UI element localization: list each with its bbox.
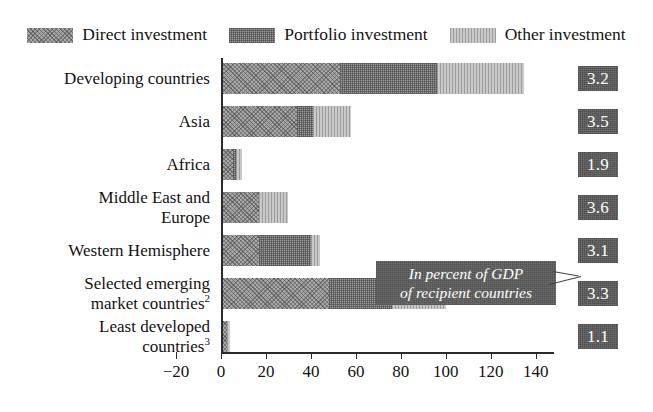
bar-row: Africa1.9 [0, 144, 653, 185]
legend-label-other-investment: Other investment [505, 26, 626, 44]
legend-swatch-other-investment [450, 28, 496, 43]
x-tick-label: 80 [392, 362, 409, 382]
value-badge: 1.9 [578, 152, 618, 177]
category-label: Middle East andEurope [0, 187, 212, 228]
footnote-marker: 3 [205, 335, 211, 347]
bar-row: Developing countries3.2 [0, 58, 653, 99]
category-label: Asia [0, 101, 212, 142]
x-tick-label: 20 [257, 362, 274, 382]
x-tick-mark [491, 352, 492, 359]
bar-segment-direct-investment [223, 235, 259, 266]
legend-label-direct-investment: Direct investment [82, 26, 207, 44]
category-label-line-1: Selected emerging [84, 274, 210, 294]
x-tick-mark [446, 352, 447, 359]
x-tick-mark [536, 352, 537, 359]
category-label: Africa [0, 144, 212, 185]
x-tick-label: −20 [163, 362, 190, 382]
x-tick-label: 140 [523, 362, 549, 382]
category-label-line-1: Western Hemisphere [68, 241, 210, 261]
category-label-line-2: market countries2 [91, 294, 210, 314]
bar-segment-other-investment [311, 235, 320, 266]
annotation-line-1: In percent of GDP [409, 264, 523, 283]
category-label: Western Hemisphere [0, 230, 212, 271]
value-badge: 3.1 [578, 238, 618, 263]
legend-item-portfolio-investment: Portfolio investment [229, 26, 427, 44]
bar-segment-portfolio-investment [259, 235, 311, 266]
category-label-line-1: Asia [179, 112, 210, 132]
annotation-callout: In percent of GDP of recipient countries [376, 261, 556, 305]
category-label: Developing countries [0, 58, 212, 99]
stacked-bar [223, 192, 288, 223]
value-badge: 3.6 [578, 195, 618, 220]
bar-segment-direct-investment [223, 149, 233, 180]
x-tick-mark [401, 352, 402, 359]
stacked-bar [223, 321, 230, 352]
bar-row: Least developedcountries31.1 [0, 316, 653, 357]
legend-label-portfolio-investment: Portfolio investment [284, 26, 427, 44]
stacked-bar [223, 63, 524, 94]
annotation-line-2: of recipient countries [400, 283, 532, 302]
stacked-bar [223, 235, 320, 266]
category-label-line-1: Middle East and [99, 188, 210, 208]
x-tick-mark [356, 352, 357, 359]
category-label-line-2: Europe [161, 208, 210, 228]
legend-item-other-investment: Other investment [450, 26, 626, 44]
plot-area: Developing countries3.2Asia3.5Africa1.9M… [0, 58, 653, 358]
x-tick-label: 100 [433, 362, 459, 382]
x-tick-label: 0 [217, 362, 226, 382]
bar-segment-direct-investment [223, 63, 340, 94]
chart-container: Direct investment Portfolio investment O… [0, 0, 653, 412]
bar-segment-other-investment [313, 106, 351, 137]
footnote-marker: 2 [205, 292, 211, 304]
bar-segment-direct-investment [223, 278, 329, 309]
bar-row: Middle East andEurope3.6 [0, 187, 653, 228]
value-badge: 3.2 [578, 66, 618, 91]
category-label-line-1: Africa [167, 155, 210, 175]
bar-segment-portfolio-investment [297, 106, 313, 137]
bar-segment-other-investment [236, 149, 242, 180]
value-badge: 3.3 [578, 281, 618, 306]
bar-segment-other-investment [437, 63, 525, 94]
category-label: Least developedcountries3 [0, 316, 212, 357]
category-label: Selected emergingmarket countries2 [0, 273, 212, 314]
bar-segment-direct-investment [223, 106, 297, 137]
bar-segment-other-investment [227, 321, 229, 352]
bar-segment-direct-investment [223, 192, 259, 223]
category-label-line-1: Developing countries [64, 69, 210, 89]
x-tick-mark [176, 352, 177, 359]
x-tick-mark [266, 352, 267, 359]
chart-legend: Direct investment Portfolio investment O… [0, 22, 653, 48]
x-tick-mark [311, 352, 312, 359]
x-axis: −20020406080100120140 [0, 352, 653, 398]
x-tick-mark [221, 352, 222, 359]
stacked-bar [223, 106, 351, 137]
bar-segment-other-investment [259, 192, 288, 223]
x-tick-label: 120 [478, 362, 504, 382]
category-label-line-1: Least developed [99, 317, 210, 337]
stacked-bar [223, 149, 242, 180]
legend-swatch-portfolio-investment [229, 28, 275, 43]
bar-row: Asia3.5 [0, 101, 653, 142]
value-badge: 3.5 [578, 109, 618, 134]
legend-swatch-direct-investment [27, 28, 73, 43]
value-badge: 1.1 [578, 324, 618, 349]
legend-item-direct-investment: Direct investment [27, 26, 207, 44]
bar-segment-portfolio-investment [340, 63, 437, 94]
x-tick-label: 60 [347, 362, 364, 382]
x-tick-label: 40 [302, 362, 319, 382]
